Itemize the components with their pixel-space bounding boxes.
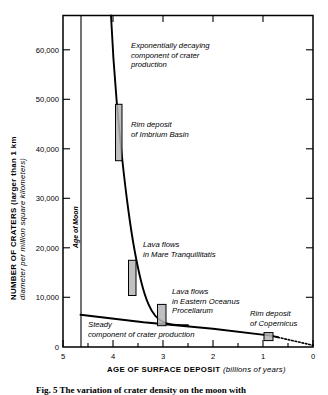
x-axis-ticks	[63, 340, 313, 347]
figure-caption-svg: Fig. 5 The variation of crater density o…	[0, 384, 328, 395]
annotation-line: in Mare Tranquillitatis	[143, 250, 216, 259]
x-axis-ticks-top	[113, 16, 263, 23]
annotation-line: of Copernicus	[250, 319, 298, 328]
x-axis-title: AGE OF SURFACE DEPOSIT (billions of year…	[107, 365, 286, 374]
y-tick-label: 20,000	[36, 244, 59, 253]
x-tick-labels: 5 4 3 2 1 0	[61, 352, 315, 361]
y-axis-title: NUMBER OF CRATERS (larger than 1 km diam…	[9, 136, 27, 300]
annotation-line: of Imbrium Basin	[131, 130, 189, 139]
annotation-line: component of crater	[131, 51, 200, 60]
annotation-line: Steady	[88, 320, 113, 329]
y-tick-label: 30,000	[36, 194, 59, 203]
crater-density-chart: 60,000 50,000 40,000 30,000 20,000 10,00…	[0, 0, 328, 395]
annotation-line: Rim deposit	[131, 120, 172, 129]
annotation-eastern-oceanus-procellarum: Lava flows in Eastern Oceanus Procellaru…	[172, 287, 240, 315]
figure-caption: Fig. 5 The variation of crater density o…	[36, 385, 246, 395]
annotation-line: Exponentially decaying	[131, 41, 210, 50]
x-tick-label: 0	[311, 352, 315, 361]
annotation-line: Lava flows	[143, 240, 179, 249]
age-of-moon-label: Age of Moon	[72, 206, 80, 249]
y-tick-labels: 60,000 50,000 40,000 30,000 20,000 10,00…	[36, 46, 59, 352]
x-tick-label: 1	[261, 352, 265, 361]
data-box-copernicus	[264, 333, 273, 341]
y-axis-ticks	[63, 50, 70, 297]
annotation-line: Procellarum	[172, 306, 214, 315]
data-box-imbrium-basin	[116, 104, 123, 160]
figure-caption-clip: Fig. 5 The variation of crater density o…	[0, 384, 328, 395]
figure-container: 60,000 50,000 40,000 30,000 20,000 10,00…	[0, 0, 328, 395]
data-box-mare-tranquillitatis	[129, 260, 137, 295]
annotation-line: Rim deposit	[250, 309, 291, 318]
annotation-imbrium-basin: Rim deposit of Imbrium Basin	[131, 120, 189, 139]
x-axis-title-units: (billions of years)	[223, 365, 286, 374]
x-tick-label: 4	[111, 352, 115, 361]
annotation-copernicus: Rim deposit of Copernicus	[250, 309, 298, 328]
annotation-line: component of crater production	[88, 330, 194, 339]
steady-component-extrapolation	[278, 337, 313, 345]
x-tick-label: 5	[61, 352, 65, 361]
data-box-eastern-oceanus-procellarum	[158, 304, 167, 325]
y-axis-title-line1: NUMBER OF CRATERS (larger than 1 km	[9, 136, 18, 300]
x-tick-label: 2	[211, 352, 215, 361]
annotation-exponential-component: Exponentially decaying component of crat…	[130, 41, 210, 69]
x-axis-title-main: AGE OF SURFACE DEPOSIT	[107, 365, 220, 374]
annotation-line: Lava flows	[172, 287, 208, 296]
y-tick-label: 10,000	[36, 293, 59, 302]
y-axis-ticks-right	[306, 50, 313, 297]
annotation-mare-tranquillitatis: Lava flows in Mare Tranquillitatis	[143, 240, 216, 259]
y-axis-title-line2: diameter per million square kilometers)	[18, 158, 27, 300]
y-tick-label: 40,000	[36, 145, 59, 154]
x-tick-label: 3	[161, 352, 165, 361]
y-tick-label: 60,000	[36, 46, 59, 55]
y-tick-label: 50,000	[36, 95, 59, 104]
y-tick-label: 0	[55, 343, 59, 352]
annotation-line: production	[130, 60, 167, 69]
annotation-line: in Eastern Oceanus	[172, 297, 240, 306]
